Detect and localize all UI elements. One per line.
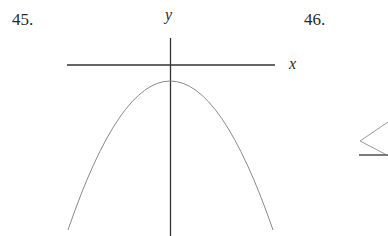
graph-46-partial	[359, 122, 388, 155]
graph-45	[0, 0, 388, 236]
